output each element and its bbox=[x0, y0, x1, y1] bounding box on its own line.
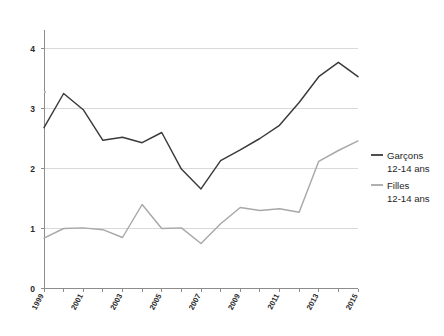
x-tick-label-2009: 2009 bbox=[226, 292, 242, 311]
x-tick-label-2003: 2003 bbox=[108, 292, 124, 311]
chart-legend: Garçons 12-14 ans Filles 12-14 ans bbox=[371, 150, 430, 205]
x-tick-label-2005: 2005 bbox=[148, 292, 164, 312]
series-group bbox=[44, 62, 358, 243]
x-tick-marks bbox=[44, 289, 358, 293]
axes bbox=[44, 30, 358, 289]
x-tick-label-2001: 2001 bbox=[69, 292, 85, 312]
y-tick-labels: 4 3 2 1 0 bbox=[30, 44, 35, 294]
x-tick-label-2015: 2015 bbox=[344, 292, 360, 312]
line-chart: 4 3 2 1 0 199920012003200520072009201120… bbox=[0, 0, 444, 336]
series-line-garcons bbox=[44, 62, 358, 189]
y-tick-label-1: 1 bbox=[30, 224, 35, 234]
legend-label-garcons-line1: Garçons bbox=[387, 150, 423, 161]
image-speck bbox=[44, 91, 46, 93]
chart-canvas: 4 3 2 1 0 199920012003200520072009201120… bbox=[0, 0, 444, 336]
y-tick-label-2: 2 bbox=[30, 164, 35, 174]
legend-label-garcons-line2: 12-14 ans bbox=[387, 163, 430, 174]
y-tick-label-4: 4 bbox=[30, 44, 35, 54]
x-tick-label-2013: 2013 bbox=[305, 292, 321, 311]
gridlines bbox=[44, 49, 358, 229]
x-tick-labels: 199920012003200520072009201120132015 bbox=[30, 292, 360, 312]
x-tick-label-2011: 2011 bbox=[266, 292, 282, 311]
y-tick-label-3: 3 bbox=[30, 104, 35, 114]
legend-label-filles-line2: 12-14 ans bbox=[387, 193, 430, 204]
y-tick-label-0: 0 bbox=[30, 284, 35, 294]
y-tick-marks bbox=[41, 49, 45, 289]
x-tick-label-1999: 1999 bbox=[30, 292, 46, 311]
legend-label-filles-line1: Filles bbox=[387, 180, 410, 191]
x-tick-label-2007: 2007 bbox=[187, 292, 203, 311]
